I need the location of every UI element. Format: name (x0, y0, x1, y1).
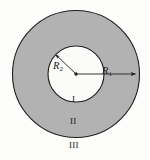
region-label-i: I (72, 95, 75, 104)
inner-radius-label: R2 (53, 61, 63, 72)
outer-radius-label: R1 (102, 66, 112, 77)
region-label-ii: II (70, 117, 77, 126)
region-label-iii: III (69, 141, 79, 150)
physics-figure: R2 R1 I II III (0, 0, 150, 160)
inner-radius-subscript: 2 (59, 65, 63, 73)
outer-radius-subscript: 1 (108, 70, 112, 78)
concentric-circles-svg (0, 0, 150, 160)
